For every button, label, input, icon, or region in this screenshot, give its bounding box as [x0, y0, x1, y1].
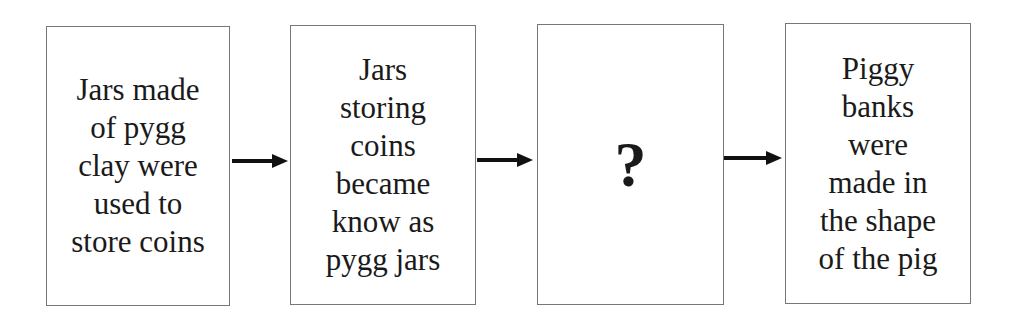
arrowhead-icon — [517, 153, 533, 167]
step-1-text: Jars made of pygg clay were used to stor… — [71, 71, 204, 261]
unknown-step-question-mark: ? — [615, 133, 647, 197]
step-4-box: Piggy banks were made in the shape of th… — [785, 23, 971, 304]
step-2-box: Jars storing coins became know as pygg j… — [290, 25, 476, 305]
step-1-box: Jars made of pygg clay were used to stor… — [46, 26, 230, 306]
step-2-text: Jars storing coins became know as pygg j… — [326, 51, 441, 279]
step-3-box: ? — [537, 24, 724, 305]
arrowhead-icon — [272, 154, 288, 168]
step-4-text: Piggy banks were made in the shape of th… — [819, 50, 938, 278]
arrowhead-icon — [766, 151, 782, 165]
